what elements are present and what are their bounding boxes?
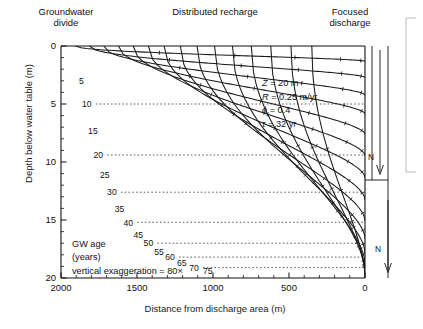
x-tick-label: 2000 [50, 282, 71, 293]
page-bracket-artifact [406, 18, 416, 172]
dotted-reference-lines [96, 104, 365, 268]
header-focused-discharge: Focused discharge [315, 6, 385, 28]
y-tick-label: 0 [51, 40, 56, 51]
y-axis-label: Depth below water table (m) [23, 34, 34, 214]
discharge-flux-arrows [377, 50, 392, 273]
header-divide-line1: Groundwater [39, 6, 94, 17]
x-tick-label: 0 [362, 282, 367, 293]
y-tick-label: 20 [45, 272, 56, 283]
parameter-0: Z = 20 m [261, 78, 299, 88]
age-contour-15 [104, 46, 365, 95]
header-divide-line2: divide [54, 17, 79, 28]
parameter-2: ϕ = 0.4 [262, 105, 290, 115]
age-label-20: 20 [93, 150, 103, 160]
age-label-45: 45 [133, 230, 143, 240]
gw-age-label-line2: (years) [72, 252, 101, 262]
y-tick-label: 15 [45, 214, 56, 225]
age-label-10: 10 [82, 99, 92, 109]
age-label-60: 60 [165, 252, 175, 262]
x-axis-label: Distance from discharge area (m) [110, 303, 320, 314]
parameter-1: R = 0.25 m/yr [262, 92, 317, 102]
gw-age-label-line1: GW age [72, 239, 106, 249]
age-label-15: 15 [88, 126, 98, 136]
age-label-35: 35 [115, 204, 125, 214]
n-label-lower: N [375, 244, 381, 254]
parameter-3: τ = 32 yr [262, 119, 296, 129]
age-label-30: 30 [107, 187, 117, 197]
age-label-75: 75 [203, 266, 213, 276]
age-contour-10 [90, 46, 365, 77]
x-tick-label: 1000 [202, 282, 223, 293]
x-tick-label: 1500 [126, 282, 147, 293]
age-contour-5 [75, 46, 365, 61]
age-label-70: 70 [189, 263, 199, 273]
age-contour-45 [197, 46, 365, 221]
vertical-exaggeration-label: vertical exaggeration = 80× [72, 266, 183, 276]
age-label-40: 40 [123, 218, 133, 228]
y-tick-label: 10 [45, 156, 56, 167]
plot-canvas: 200015001000500005101520 510152025303540… [0, 0, 423, 329]
age-contour-30 [148, 46, 365, 156]
n-label-upper: N [368, 152, 374, 162]
age-label-5: 5 [79, 76, 84, 86]
header-distributed-recharge: Distributed recharge [150, 6, 280, 17]
age-label-25: 25 [100, 170, 110, 180]
header-focused-line2: discharge [329, 17, 370, 28]
x-tick-label: 500 [281, 282, 297, 293]
age-label-55: 55 [154, 247, 164, 257]
header-groundwater-divide: Groundwater divide [18, 6, 114, 28]
y-tick-label: 5 [51, 98, 56, 109]
age-label-50: 50 [144, 238, 154, 248]
groundwater-age-figure: Groundwater divide Distributed recharge … [0, 0, 423, 329]
age-contour-70 [291, 46, 365, 275]
age-contour-curves [75, 46, 366, 277]
header-focused-line1: Focused [332, 6, 368, 17]
